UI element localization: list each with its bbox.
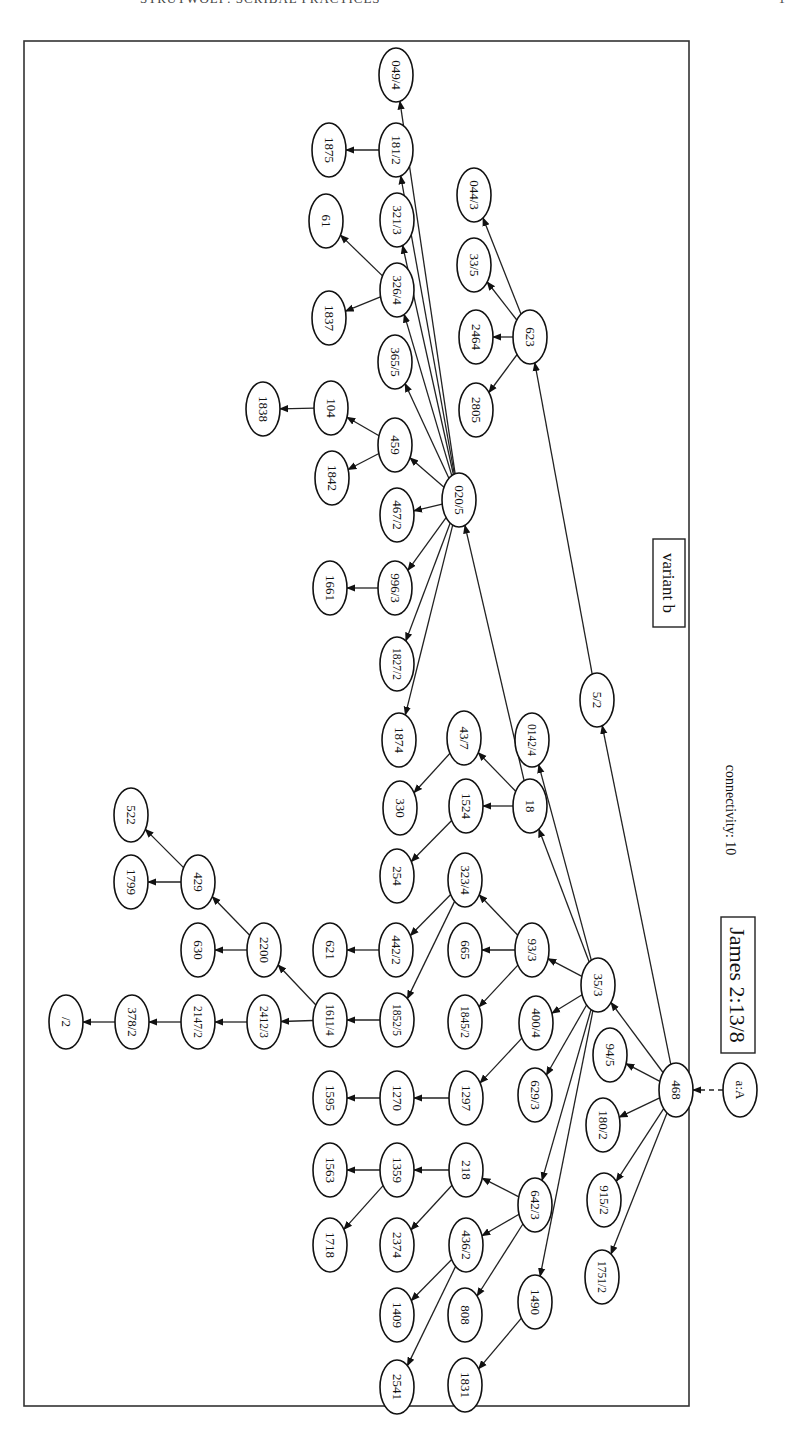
- node-1831: 1831: [448, 1358, 482, 1412]
- node-323-4: 323/4: [448, 853, 482, 907]
- node-label: 93/3: [525, 938, 540, 961]
- node-2805: 2805: [459, 383, 493, 437]
- node-1718: 1718: [313, 1218, 347, 1272]
- node-a-A: a:A: [723, 1063, 757, 1117]
- node-378-2: 378/2: [115, 995, 149, 1049]
- node-1611-4: 1611/4: [313, 993, 347, 1047]
- node-2: /2: [49, 995, 83, 1049]
- node-label: 218: [459, 1160, 474, 1180]
- node-630: 630: [181, 923, 215, 977]
- node-label: 467/2: [390, 500, 405, 530]
- node-436-2: 436/2: [449, 1218, 483, 1272]
- node-18: 18: [513, 779, 547, 833]
- node-623: 623: [513, 310, 547, 364]
- node-642-3: 642/3: [518, 1178, 552, 1232]
- node-label: 044/3: [467, 180, 482, 210]
- node-label: 254: [390, 866, 405, 886]
- edge-5-2-to-623: [535, 363, 592, 674]
- node-label: 808: [458, 1305, 473, 1325]
- node-label: 18: [523, 800, 538, 813]
- edge-020-5-to-996-3: [408, 518, 446, 571]
- node-label: 1661: [323, 575, 338, 601]
- edge-35-3-to-0142-4: [539, 765, 592, 960]
- node-330: 330: [383, 781, 417, 835]
- node-1661: 1661: [313, 561, 347, 615]
- node-468: 468: [659, 1063, 693, 1117]
- node-1827-2: 1827/2: [380, 637, 414, 691]
- node-label: 1611/4: [324, 1004, 336, 1036]
- edge-436-2-to-1409: [411, 1260, 451, 1301]
- node-label: 442/2: [389, 935, 404, 965]
- node-0142-4: 0142/4: [515, 713, 549, 767]
- node-label: 378/2: [125, 1007, 140, 1037]
- node-label: 1799: [124, 869, 139, 895]
- node-label: 621: [323, 940, 338, 960]
- node-label: 2147/2: [192, 1006, 204, 1038]
- node-label: 1827/2: [391, 648, 403, 680]
- variant-box: variant b: [653, 539, 685, 627]
- node-326-4: 326/4: [380, 263, 414, 317]
- node-35-3: 35/3: [581, 958, 615, 1012]
- node-044-3: 044/3: [457, 168, 491, 222]
- node-459: 459: [378, 418, 412, 472]
- node-2200: 2200: [247, 923, 281, 977]
- node-2374: 2374: [380, 1218, 414, 1272]
- edge-429-to-522: [145, 829, 183, 867]
- edge-93-3-to-323-4: [479, 895, 518, 935]
- edge-326-4-to-61: [341, 235, 383, 276]
- node-1270: 1270: [380, 1071, 414, 1125]
- node-1524: 1524: [449, 779, 483, 833]
- node-label: 330: [393, 798, 408, 818]
- node-label: 020/5: [452, 485, 467, 515]
- node-915-2: 915/2: [587, 1173, 621, 1227]
- node-label: 623: [523, 327, 538, 347]
- node-1595: 1595: [313, 1071, 347, 1125]
- edge-35-3-to-400-4: [552, 995, 582, 1014]
- node-label: 321/3: [390, 205, 405, 235]
- edge-93-3-to-1845-2: [479, 965, 518, 1007]
- node-label: 2200: [257, 937, 272, 963]
- node-2147-2: 2147/2: [181, 995, 215, 1049]
- node-label: 1831: [458, 1372, 473, 1398]
- edge-468-to-180-2: [619, 1098, 659, 1117]
- node-label: 630: [191, 940, 206, 960]
- node-43-7: 43/7: [447, 711, 481, 765]
- node-label: 1842: [325, 465, 340, 491]
- node-label: 1359: [390, 1157, 405, 1183]
- edge-218-to-2374: [411, 1185, 452, 1230]
- node-label: 0142/4: [526, 724, 538, 756]
- node-1297: 1297: [449, 1071, 483, 1125]
- node-label: 429: [191, 872, 206, 892]
- node-label: 1718: [323, 1232, 338, 1258]
- node-61: 61: [309, 194, 343, 248]
- node-label: 629/3: [528, 1080, 543, 1110]
- edge-642-3-to-436-2: [482, 1214, 519, 1235]
- edge-104-to-1838: [280, 408, 314, 409]
- node-522: 522: [114, 788, 148, 842]
- node-1874: 1874: [382, 713, 416, 767]
- variant-label: variant b: [659, 553, 678, 613]
- node-label: 1297: [459, 1085, 474, 1112]
- node-label: 1852/5: [391, 1004, 403, 1036]
- node-020-5: 020/5: [442, 473, 476, 527]
- node-1751-2: 1751/2: [585, 1250, 619, 1304]
- node-label: 1524: [459, 793, 474, 820]
- node-629-3: 629/3: [518, 1068, 552, 1122]
- node-label: 400/4: [529, 1008, 544, 1038]
- node-label: 180/2: [596, 1110, 611, 1140]
- edge-1524-to-254: [411, 821, 451, 862]
- edge-642-3-to-218: [482, 1178, 519, 1197]
- node-label: 2464: [469, 324, 484, 351]
- node-321-3: 321/3: [380, 193, 414, 247]
- node-label: 2412/3: [258, 1006, 270, 1038]
- node-1490: 1490: [518, 1275, 552, 1329]
- node-label: 1751/2: [596, 1261, 608, 1293]
- node-label: 326/4: [390, 275, 405, 305]
- node-label: 2541: [390, 1374, 405, 1400]
- node-1875: 1875: [312, 123, 346, 177]
- node-label: 94/5: [603, 1043, 618, 1066]
- node-label: 1490: [528, 1289, 543, 1315]
- node-label: 1874: [392, 727, 407, 754]
- node-label: 35/3: [591, 973, 606, 996]
- node-1837: 1837: [312, 291, 346, 345]
